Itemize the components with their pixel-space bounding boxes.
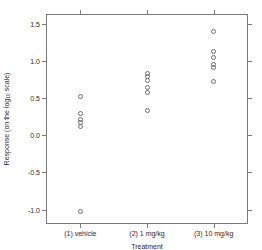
data-point <box>211 49 216 54</box>
data-point <box>211 29 216 34</box>
x-axis-tick-label: (3) 10 mg/kg <box>194 230 233 238</box>
data-point <box>78 124 83 129</box>
y-axis-tick-label: -1.0 <box>28 206 40 213</box>
x-axis-tick-top <box>147 10 148 15</box>
y-axis-tick-right <box>247 98 252 99</box>
x-axis-tick <box>80 223 81 228</box>
x-axis-tick-label: (1) vehicle <box>64 230 96 238</box>
data-point <box>145 108 150 113</box>
plot-area: -1.0-0.50.00.51.01.5(1) vehicle(2) 1 mg/… <box>47 15 247 223</box>
y-axis-tick-right <box>247 61 252 62</box>
x-axis-tick <box>147 223 148 228</box>
x-axis-tick-label: (2) 1 mg/kg <box>129 230 164 238</box>
y-axis-tick-label: 0.5 <box>30 95 40 102</box>
x-axis-tick-top <box>214 10 215 15</box>
scatter-plot-figure: -1.0-0.50.00.51.01.5(1) vehicle(2) 1 mg/… <box>0 0 262 250</box>
y-axis-title: Response (on the log10 scale) <box>2 14 12 224</box>
y-axis-tick <box>42 98 47 99</box>
x-axis-title: Treatment <box>46 243 248 250</box>
y-axis-tick-right <box>247 24 252 25</box>
y-axis-tick-right <box>247 210 252 211</box>
y-axis-tick <box>42 172 47 173</box>
data-point <box>145 90 150 95</box>
data-point <box>78 111 83 116</box>
y-axis-tick <box>42 24 47 25</box>
data-point <box>78 94 83 99</box>
data-point <box>211 55 216 60</box>
y-axis-tick <box>42 210 47 211</box>
y-axis-tick <box>42 61 47 62</box>
data-point <box>78 209 83 214</box>
y-axis-tick-label: 0.0 <box>30 132 40 139</box>
y-axis-tick-label: -0.5 <box>28 169 40 176</box>
plot-frame: -1.0-0.50.00.51.01.5(1) vehicle(2) 1 mg/… <box>46 14 248 224</box>
x-axis-tick <box>214 223 215 228</box>
data-point <box>145 85 150 90</box>
y-axis-tick-right <box>247 135 252 136</box>
data-point <box>145 78 150 83</box>
y-axis-tick-label: 1.5 <box>30 20 40 27</box>
data-point <box>211 65 216 70</box>
data-point <box>211 79 216 84</box>
y-axis-tick-label: 1.0 <box>30 58 40 65</box>
y-axis-tick-right <box>247 172 252 173</box>
y-axis-tick <box>42 135 47 136</box>
x-axis-tick-top <box>80 10 81 15</box>
